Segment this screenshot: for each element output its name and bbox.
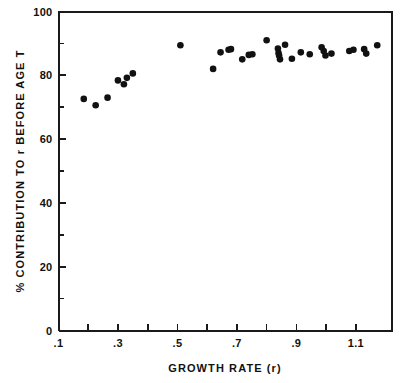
x-axis-tick-label: .7 <box>232 337 242 349</box>
data-point <box>217 49 224 56</box>
x-axis-tick-label: .9 <box>291 337 301 349</box>
data-point <box>228 46 235 53</box>
data-point <box>210 66 217 73</box>
y-axis-tick-label: 60 <box>40 133 53 145</box>
plot-frame <box>59 12 392 331</box>
data-point <box>80 96 87 103</box>
data-point <box>322 52 329 59</box>
data-point <box>124 75 131 82</box>
y-axis-tick-label: 40 <box>40 197 53 209</box>
data-point <box>263 37 270 44</box>
data-point <box>350 46 357 53</box>
x-axis-tick-label: .5 <box>173 337 183 349</box>
data-point <box>363 50 370 57</box>
data-point <box>121 81 128 88</box>
data-point <box>289 55 296 62</box>
y-axis-tick-label: 100 <box>33 6 52 18</box>
x-axis-tick-label: .1 <box>54 337 64 349</box>
data-point <box>306 51 313 58</box>
data-point <box>328 50 335 57</box>
data-point <box>130 70 137 77</box>
data-point <box>249 51 256 58</box>
data-point <box>104 94 111 101</box>
y-axis-tick-label: 20 <box>40 261 53 273</box>
data-point <box>239 56 246 63</box>
scatter-plot-figure: 020406080100.1.3.5.7.91.1GROWTH RATE (r)… <box>0 0 407 383</box>
y-axis-tick-label: 80 <box>40 69 53 81</box>
x-axis-tick-label: 1.1 <box>348 337 364 349</box>
x-axis-title: GROWTH RATE (r) <box>168 362 281 374</box>
x-axis-tick-label: .3 <box>113 337 123 349</box>
data-point <box>277 56 284 63</box>
data-point <box>115 77 122 84</box>
data-point <box>177 42 184 49</box>
y-axis-tick-label: 0 <box>46 325 52 337</box>
data-point <box>92 102 99 109</box>
data-point <box>298 49 305 56</box>
chart-canvas: 020406080100.1.3.5.7.91.1GROWTH RATE (r)… <box>0 0 407 383</box>
y-axis-title: % CONTRIBUTION TO r BEFORE AGE T <box>14 50 26 293</box>
data-point <box>374 42 381 49</box>
data-point <box>282 41 289 48</box>
